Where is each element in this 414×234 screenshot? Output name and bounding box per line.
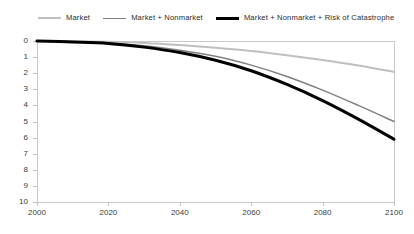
chart-curves xyxy=(37,41,395,203)
chart-legend: Market Market + Nonmarket Market + Nonma… xyxy=(0,10,414,26)
x-tick-label: 2080 xyxy=(303,209,343,217)
x-tick-label: 2040 xyxy=(160,209,200,217)
y-tick-label: 1 xyxy=(8,53,28,61)
legend-label-market-nonmarket: Market + Nonmarket xyxy=(131,14,203,22)
y-tick-label: 8 xyxy=(8,166,28,174)
x-tick-label: 2020 xyxy=(88,209,128,217)
legend-label-market-nonmarket-catastrophe: Market + Nonmarket + Risk of Catastrophe xyxy=(244,14,394,22)
y-tick-label: 6 xyxy=(8,134,28,142)
y-tick-label: 9 xyxy=(8,182,28,190)
y-tick-label: 10 xyxy=(8,198,28,206)
legend-item-market[interactable]: Market xyxy=(38,14,90,22)
legend-swatch-market-nonmarket xyxy=(103,18,126,19)
legend-item-market-nonmarket-catastrophe[interactable]: Market + Nonmarket + Risk of Catastrophe xyxy=(216,14,394,22)
caption-sliver xyxy=(18,230,398,233)
legend-item-market-nonmarket[interactable]: Market + Nonmarket xyxy=(103,14,203,22)
legend-swatch-market xyxy=(38,17,61,19)
y-tick-label: 2 xyxy=(8,69,28,77)
x-tick-label: 2000 xyxy=(17,209,57,217)
legend-swatch-market-nonmarket-catastrophe xyxy=(216,17,239,20)
chart-figure: Market Market + Nonmarket Market + Nonma… xyxy=(0,0,414,234)
legend-label-market: Market xyxy=(66,14,90,22)
y-tick-label: 7 xyxy=(8,150,28,158)
x-tick-label: 2100 xyxy=(374,209,414,217)
plot-area xyxy=(37,41,395,203)
y-tick-label: 4 xyxy=(8,101,28,109)
y-tick-label: 0 xyxy=(8,37,28,45)
x-tick-label: 2060 xyxy=(231,209,271,217)
y-tick-label: 5 xyxy=(8,118,28,126)
y-tick-label: 3 xyxy=(8,85,28,93)
